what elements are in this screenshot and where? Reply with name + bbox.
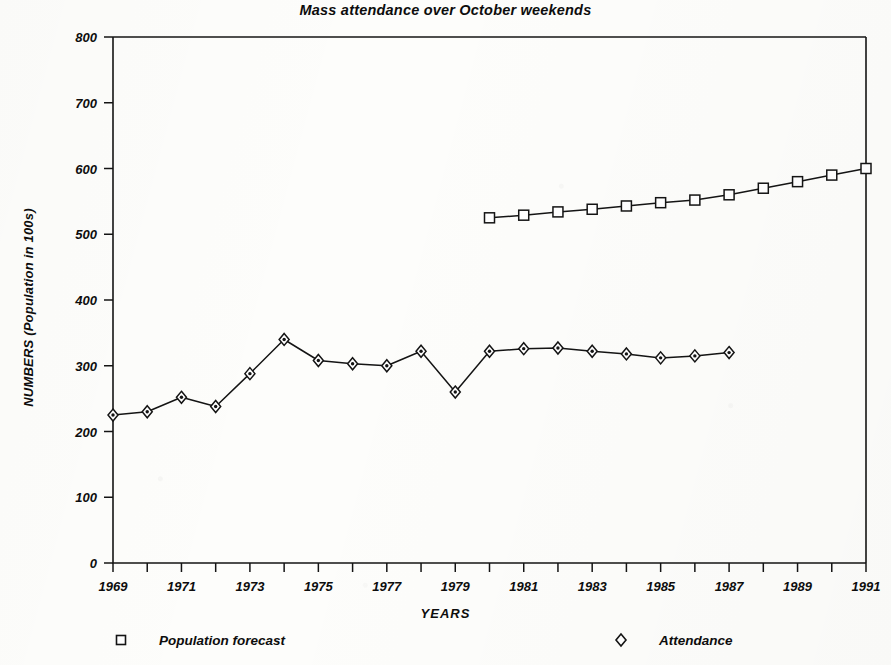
legend-item-population-forecast: Population forecast [113, 632, 285, 648]
diamond-marker-icon [613, 632, 629, 648]
axes [113, 37, 866, 563]
svg-text:1987: 1987 [715, 579, 745, 594]
legend-label-population-forecast: Population forecast [159, 633, 285, 648]
svg-text:200: 200 [74, 425, 97, 440]
svg-text:700: 700 [75, 96, 97, 111]
square-marker-icon [113, 632, 129, 648]
svg-text:1973: 1973 [235, 579, 265, 594]
svg-text:1985: 1985 [646, 579, 676, 594]
svg-text:1989: 1989 [783, 579, 813, 594]
svg-text:500: 500 [75, 227, 97, 242]
svg-text:1969: 1969 [99, 579, 129, 594]
chart-plot-area: 0100200300400500600700800 19691971197319… [0, 0, 891, 620]
svg-text:300: 300 [75, 359, 97, 374]
data-series [108, 164, 871, 422]
legend-item-attendance: Attendance [613, 632, 733, 648]
svg-text:1971: 1971 [167, 579, 196, 594]
svg-text:1979: 1979 [441, 579, 471, 594]
chart-legend: Population forecast Attendance [0, 632, 891, 660]
svg-text:1991: 1991 [852, 579, 881, 594]
legend-label-attendance: Attendance [659, 633, 733, 648]
y-axis-ticks: 0100200300400500600700800 [74, 30, 113, 571]
chart-page: Mass attendance over October weekends NU… [0, 0, 891, 665]
svg-text:1981: 1981 [509, 579, 538, 594]
svg-text:1975: 1975 [304, 579, 334, 594]
svg-text:800: 800 [75, 30, 97, 45]
svg-text:600: 600 [75, 162, 97, 177]
x-axis-ticks: 1969197119731975197719791981198319851987… [99, 563, 881, 594]
svg-text:100: 100 [75, 490, 97, 505]
svg-text:0: 0 [90, 556, 98, 571]
svg-text:1977: 1977 [372, 579, 402, 594]
svg-text:1983: 1983 [578, 579, 608, 594]
svg-text:400: 400 [74, 293, 97, 308]
